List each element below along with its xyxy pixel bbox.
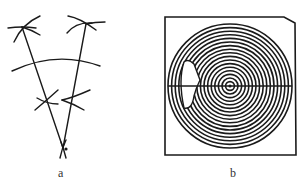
left-line: [22, 27, 63, 148]
panel-b-caption: b: [230, 166, 236, 181]
panel-b-concentric-target: b: [150, 0, 306, 188]
panel-a-caption: a: [58, 166, 63, 181]
panel-a-construction: a: [0, 0, 150, 188]
right-line: [63, 24, 86, 148]
construction-drawing: [0, 0, 150, 188]
concentric-circles-drawing: [150, 0, 306, 188]
central-arc: [12, 59, 100, 71]
